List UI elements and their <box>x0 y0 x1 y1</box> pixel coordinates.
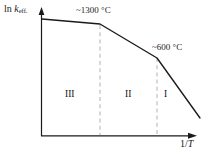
x-axis-label-numerator: 1/ <box>180 138 188 149</box>
plot-area <box>0 0 211 159</box>
region-label-II: II <box>125 90 131 100</box>
kinetics-schematic-figure: ln keff. 1/T ~1300 °C ~600 °C III II I <box>0 0 211 159</box>
region-label-III: III <box>65 90 75 100</box>
kinetics-curve <box>42 19 200 118</box>
y-axis-label-prefix: ln <box>4 3 14 14</box>
x-axis-label-symbol: T <box>188 138 194 149</box>
y-axis-label: ln keff. <box>4 4 27 15</box>
annotation-transition-600: ~600 °C <box>152 43 182 52</box>
annotation-transition-1300: ~1300 °C <box>76 6 111 15</box>
x-axis-label: 1/T <box>180 139 193 149</box>
y-axis-arrowhead <box>39 7 45 15</box>
region-label-I: I <box>164 90 167 100</box>
y-axis-label-subscript: eff. <box>19 7 28 14</box>
